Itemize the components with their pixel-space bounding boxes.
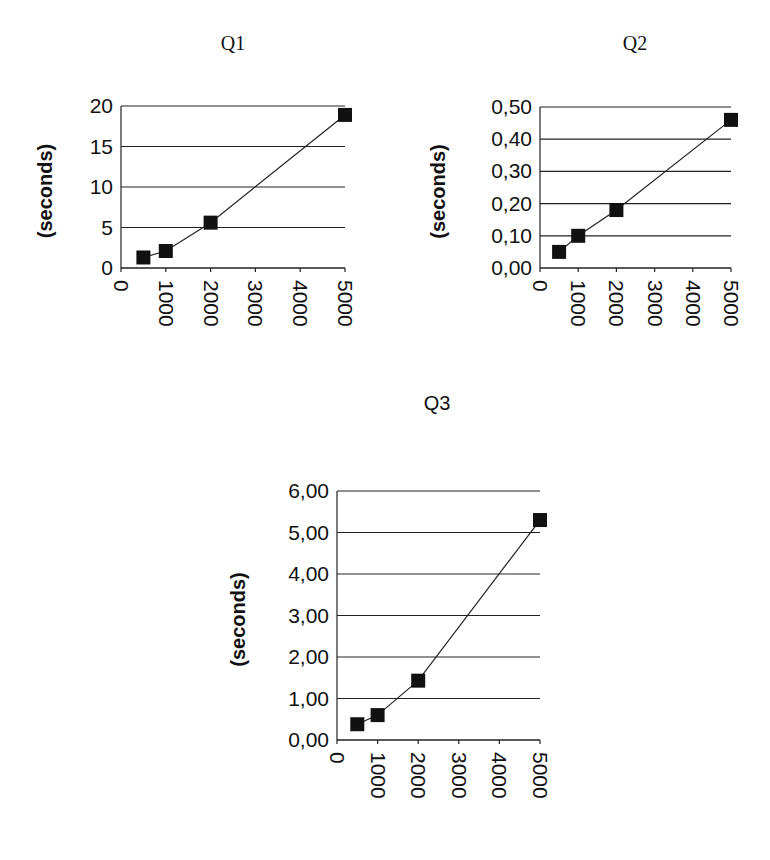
chart-q3-svg: Q30,001,002,003,004,005,006,000100020003…: [0, 0, 770, 860]
y-tick-label: 5,00: [288, 521, 329, 544]
x-tick-label: 2000: [407, 752, 430, 799]
chart-title: Q3: [424, 392, 451, 414]
y-tick-label: 4,00: [288, 562, 329, 585]
x-tick-label: 5000: [529, 752, 552, 799]
series-line: [357, 520, 540, 724]
x-tick-label: 1000: [367, 752, 390, 799]
data-point-marker: [371, 708, 385, 722]
y-tick-label: 3,00: [288, 604, 329, 627]
data-point-marker: [533, 513, 547, 527]
x-tick-label: 4000: [488, 752, 511, 799]
y-tick-label: 0,00: [288, 728, 329, 751]
data-point-marker: [350, 717, 364, 731]
x-tick-label: 0: [326, 752, 349, 764]
y-tick-label: 2,00: [288, 645, 329, 668]
y-tick-label: 1,00: [288, 687, 329, 710]
x-tick-label: 3000: [448, 752, 471, 799]
y-tick-label: 6,00: [288, 479, 329, 502]
chart-q3: Q30,001,002,003,004,005,006,000100020003…: [0, 0, 770, 860]
data-point-marker: [411, 674, 425, 688]
y-axis-label: (seconds): [227, 572, 249, 666]
